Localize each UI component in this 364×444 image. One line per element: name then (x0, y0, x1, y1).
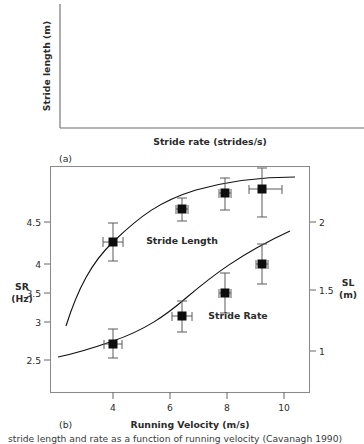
stride-length-series-label: Stride Length (146, 235, 218, 246)
right-tick-label-2.0: 2 (319, 217, 325, 228)
panel-b-left-tick-group (44, 222, 50, 360)
x-tick-label-10: 10 (278, 402, 290, 413)
panel-b-id-label: (b) (59, 419, 72, 430)
panel-a-chart: Stride length (m) Stride rate (strides/s… (0, 0, 364, 166)
stride-length-point-2 (176, 198, 188, 221)
panel-a-y-axis-label: Stride length (m) (41, 21, 52, 111)
left-tick-label-2.5: 2.5 (26, 355, 41, 366)
x-tick-label-8: 8 (224, 402, 230, 413)
figure-caption-strip: stride length and rate as a function of … (0, 434, 364, 444)
right-tick-label-1.5: 1.5 (319, 285, 334, 296)
x-tick-label-4: 4 (110, 402, 116, 413)
left-axis-title-line2: (Hz) (11, 293, 33, 304)
panel-b-x-tick-group (113, 392, 284, 399)
figure-container: Stride length (m) Stride rate (strides/s… (0, 0, 364, 444)
stride-rate-point-2 (172, 301, 192, 332)
stride-length-point-1 (103, 223, 123, 261)
figure-caption: stride length and rate as a function of … (8, 434, 342, 444)
panel-b-right-tick-group (310, 222, 316, 351)
panel-a-id-label: (a) (59, 153, 72, 164)
panel-b-x-axis-label: Running Velocity (m/s) (131, 419, 250, 430)
left-tick-label-4.0: 4 (35, 259, 41, 270)
panel-a-x-axis-label: Stride rate (strides/s) (153, 136, 267, 147)
stride-rate-point-4 (256, 244, 268, 284)
panel-b-plot-frame (51, 167, 310, 393)
stride-length-point-4 (249, 168, 282, 217)
stride-rate-fit-curve (58, 231, 290, 357)
stride-rate-point-1 (104, 329, 122, 358)
stride-rate-series-label: Stride Rate (208, 310, 267, 321)
panel-b-chart: 4.5 4 3.5 3 2.5 SR (Hz) 2 1.5 1 SL (m) 4… (0, 166, 364, 444)
left-tick-label-4.5: 4.5 (26, 217, 41, 228)
stride-length-datapoint-group (103, 168, 282, 261)
right-tick-label-1.0: 1 (319, 346, 325, 357)
right-axis-title-line1: SL (342, 277, 355, 288)
right-axis-title-line2: (m) (339, 289, 357, 300)
left-axis-title-line1: SR (15, 281, 29, 292)
left-tick-label-3.0: 3 (35, 317, 41, 328)
stride-rate-point-3 (219, 273, 231, 313)
stride-rate-datapoint-group (104, 244, 268, 358)
stride-length-fit-curve (66, 177, 295, 326)
x-tick-label-6: 6 (167, 402, 173, 413)
